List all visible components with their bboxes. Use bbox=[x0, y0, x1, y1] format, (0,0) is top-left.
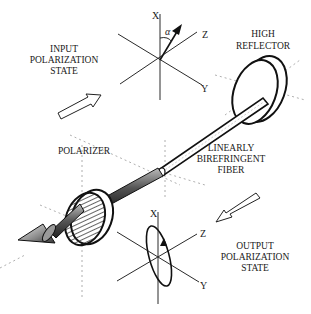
axis-label-x-bottom: X bbox=[150, 208, 158, 219]
output-direction-arrow bbox=[216, 193, 260, 222]
svg-text:BIREFRINGENT: BIREFRINGENT bbox=[197, 154, 266, 164]
label-polarizer: POLARIZER bbox=[58, 146, 111, 156]
svg-text:REFLECTOR: REFLECTOR bbox=[236, 41, 291, 51]
axis-label-x-top: X bbox=[152, 10, 160, 21]
label-linearly-birefringent-fiber: LINEARLY BIREFRINGENT FIBER bbox=[197, 143, 266, 175]
svg-text:LINEARLY: LINEARLY bbox=[208, 143, 255, 153]
label-output-polarization-state: OUTPUT POLARIZATION STATE bbox=[221, 241, 290, 273]
svg-text:INPUT: INPUT bbox=[50, 44, 78, 54]
polarization-diagram: X Z Y α X bbox=[0, 0, 311, 314]
axis-label-z-top: Z bbox=[202, 29, 208, 40]
axis-label-z-bottom: Z bbox=[200, 228, 206, 239]
svg-text:HIGH: HIGH bbox=[251, 29, 275, 39]
birefringent-fiber bbox=[159, 98, 268, 176]
svg-text:POLARIZER: POLARIZER bbox=[58, 146, 111, 156]
output-axes: X Z Y bbox=[117, 208, 207, 304]
input-direction-arrow bbox=[58, 94, 101, 119]
axis-label-y-top: Y bbox=[201, 83, 208, 94]
label-input-polarization-state: INPUT POLARIZATION STATE bbox=[30, 44, 99, 76]
svg-text:POLARIZATION: POLARIZATION bbox=[30, 55, 99, 65]
svg-text:STATE: STATE bbox=[50, 66, 78, 76]
svg-text:POLARIZATION: POLARIZATION bbox=[221, 252, 290, 262]
svg-text:FIBER: FIBER bbox=[218, 165, 246, 175]
svg-text:STATE: STATE bbox=[241, 263, 269, 273]
input-axes: X Z Y α bbox=[118, 10, 208, 100]
axis-label-y-bottom: Y bbox=[200, 280, 207, 291]
label-high-reflector: HIGH REFLECTOR bbox=[236, 29, 291, 51]
svg-text:OUTPUT: OUTPUT bbox=[236, 241, 274, 251]
angle-label-alpha: α bbox=[165, 26, 171, 37]
